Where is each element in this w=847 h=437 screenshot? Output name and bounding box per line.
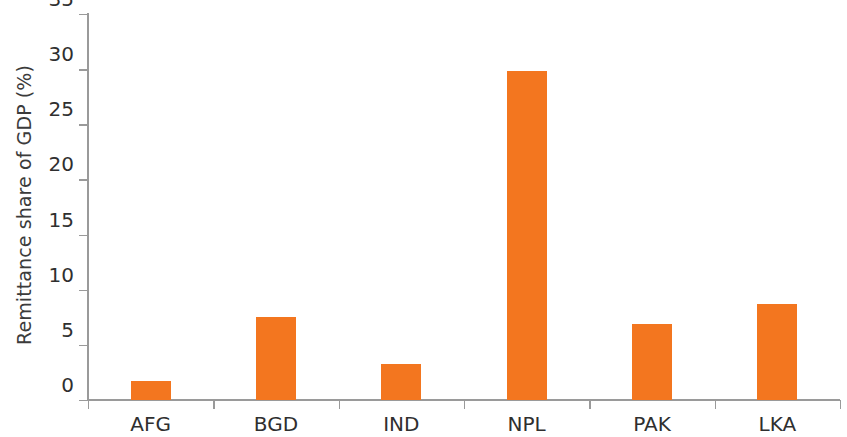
y-axis-tick-mark bbox=[79, 235, 88, 236]
plot-area bbox=[88, 14, 840, 400]
x-axis-tick-mark bbox=[715, 400, 716, 409]
x-axis-label-afg: AFG bbox=[88, 412, 213, 436]
bar-lka bbox=[757, 304, 797, 400]
x-axis-tick-mark bbox=[213, 400, 214, 409]
x-axis-tick-mark bbox=[840, 400, 841, 409]
y-axis-tick-mark bbox=[79, 69, 88, 70]
y-axis-tick-label: 5 bbox=[61, 320, 74, 340]
y-axis-tick-label: 10 bbox=[49, 265, 74, 285]
y-axis-tick-mark bbox=[79, 14, 88, 15]
bar-chart: Remittance share of GDP (%) 051015202530… bbox=[0, 0, 847, 437]
y-axis-tick-mark bbox=[79, 124, 88, 125]
x-axis-label-ind: IND bbox=[339, 412, 464, 436]
y-axis-tick-mark bbox=[79, 179, 88, 180]
y-axis-tick-mark bbox=[79, 345, 88, 346]
y-axis-tick-label: 15 bbox=[49, 210, 74, 230]
x-axis-label-bgd: BGD bbox=[213, 412, 338, 436]
y-axis-tick-label: 20 bbox=[49, 154, 74, 174]
bar-npl bbox=[507, 71, 547, 400]
bar-bgd bbox=[256, 317, 296, 400]
x-axis-tick-mark bbox=[339, 400, 340, 409]
y-axis-tick-label: 30 bbox=[49, 44, 74, 64]
bar-afg bbox=[131, 381, 171, 400]
bar-ind bbox=[381, 364, 421, 400]
y-axis-tick-label: 25 bbox=[49, 99, 74, 119]
x-axis-label-pak: PAK bbox=[589, 412, 714, 436]
x-axis-label-npl: NPL bbox=[464, 412, 589, 436]
y-axis-tick-mark bbox=[79, 400, 88, 401]
y-axis-tick-labels: 05101520253035 bbox=[0, 0, 74, 386]
y-axis-tick-mark bbox=[79, 290, 88, 291]
x-axis-tick-mark bbox=[88, 400, 89, 409]
y-axis-tick-label: 35 bbox=[49, 0, 74, 9]
y-axis-tick-label: 0 bbox=[61, 375, 74, 395]
x-axis-tick-mark bbox=[464, 400, 465, 409]
bar-pak bbox=[632, 324, 672, 400]
x-axis-tick-mark bbox=[589, 400, 590, 409]
x-axis-label-lka: LKA bbox=[715, 412, 840, 436]
